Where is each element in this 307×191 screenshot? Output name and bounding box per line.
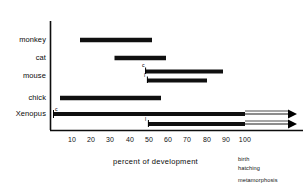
x-axis-title: percent of development (113, 157, 198, 166)
annotation-metamorphosis: metamorphosis (238, 177, 278, 184)
bar-xenopus-c-arrowhead (288, 110, 297, 119)
x-tick-20: 20 (81, 136, 101, 144)
marker-mouse-l: l (144, 73, 145, 78)
x-tick-60: 60 (158, 136, 178, 144)
bar-xenopus-l-arrowhead (288, 120, 297, 129)
marker-mouse-c: c (142, 63, 145, 68)
x-tick-90: 90 (216, 136, 236, 144)
category-label-chick: chick (0, 94, 46, 102)
marker-xenopus-c: c (55, 107, 58, 112)
x-tick-10: 10 (62, 136, 82, 144)
annotation-birth: birth (238, 156, 249, 163)
marker-xenopus-l: l (145, 117, 146, 122)
x-tick-50: 50 (139, 136, 159, 144)
category-label-mouse: mouse (0, 72, 46, 80)
x-tick-40: 40 (120, 136, 140, 144)
development-timeline-chart: monkey cat mouse chick Xenopus c l c l 1… (0, 0, 307, 191)
annotation-hatching: hatching (238, 165, 260, 172)
x-tick-70: 70 (177, 136, 197, 144)
category-label-cat: cat (0, 54, 46, 62)
x-tick-30: 30 (100, 136, 120, 144)
category-label-monkey: monkey (0, 36, 46, 44)
x-tick-80: 80 (197, 136, 217, 144)
category-label-xenopus: Xenopus (0, 110, 46, 118)
x-tick-100: 100 (235, 136, 255, 144)
